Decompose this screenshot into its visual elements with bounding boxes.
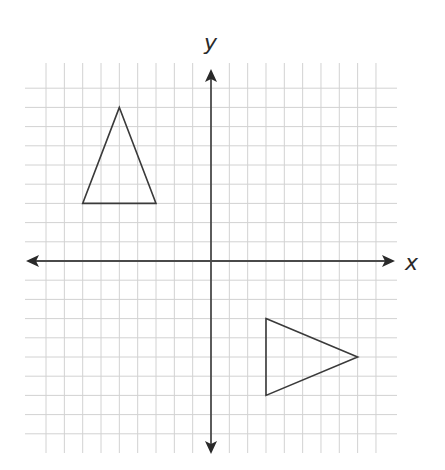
x-axis-label: x	[405, 252, 418, 274]
shapes	[83, 107, 358, 395]
coordinate-plane	[0, 0, 445, 470]
y-axis-label: y	[204, 32, 217, 54]
